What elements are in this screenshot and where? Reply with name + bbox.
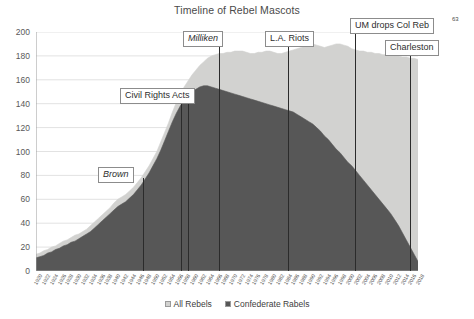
y-axis-tick-label: 60 (21, 194, 30, 204)
annotation-label[interactable]: UM drops Col Reb (350, 18, 434, 34)
y-axis: 020406080100120140160180200 (0, 32, 34, 271)
plot-area (36, 32, 418, 271)
legend-swatch-icon (225, 301, 231, 307)
y-axis-tick-label: 180 (16, 51, 30, 61)
y-axis-tick-label: 100 (16, 147, 30, 157)
y-axis-tick-label: 140 (16, 99, 30, 109)
x-axis: 1920192219241926192819301932193419361938… (36, 272, 418, 300)
annotation-label[interactable]: Milliken (183, 31, 223, 47)
annotation-marker-line (188, 101, 189, 271)
annotation-marker-line (181, 101, 182, 271)
plot-svg (36, 32, 418, 271)
annotation-marker-line (355, 31, 356, 271)
annotation-label[interactable]: Charleston (385, 40, 439, 56)
y-axis-tick-label: 80 (21, 170, 30, 180)
legend-swatch-icon (165, 301, 171, 307)
chart-title: Timeline of Rebel Mascots (0, 4, 474, 16)
chart-container: Timeline of Rebel Mascots 02040608010012… (0, 0, 474, 319)
annotation-label[interactable]: Civil Rights Acts (120, 88, 195, 104)
annotation-marker-line (410, 53, 411, 271)
y-axis-tick-label: 20 (21, 242, 30, 252)
annotation-marker-line (143, 178, 144, 271)
annotation-marker-line (219, 44, 220, 271)
y-axis-tick-label: 0 (25, 266, 30, 276)
annotation-label[interactable]: Brown (98, 167, 134, 183)
legend-label: All Rebels (174, 299, 212, 309)
legend-label: Confederate Rabels (234, 299, 310, 309)
footnote-superscript: 63 (452, 16, 459, 22)
y-axis-tick-label: 120 (16, 123, 30, 133)
chart-legend: All RebelsConfederate Rabels (0, 299, 474, 309)
y-axis-tick-label: 160 (16, 75, 30, 85)
legend-entry[interactable]: All Rebels (165, 299, 212, 309)
y-axis-tick-label: 40 (21, 218, 30, 228)
annotation-label[interactable]: L.A. Riots (265, 31, 314, 47)
legend-entry[interactable]: Confederate Rabels (225, 299, 310, 309)
annotation-marker-line (288, 44, 289, 271)
y-axis-tick-label: 200 (16, 27, 30, 37)
